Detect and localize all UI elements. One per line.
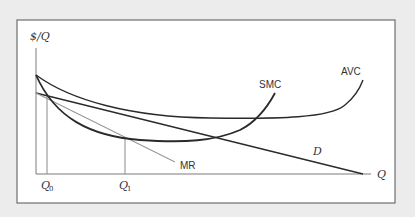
cost-curves-diagram: $/Q Q SMC AVC MR D Q 0 Q 1 (0, 0, 415, 217)
x-axis-label: Q (377, 168, 386, 181)
mr-label: MR (180, 160, 196, 171)
diagram-stage: $/Q Q SMC AVC MR D Q 0 Q 1 (0, 0, 415, 217)
q0-subscript: 0 (49, 185, 53, 193)
q1-subscript: 1 (127, 185, 131, 193)
avc-label: AVC (341, 66, 361, 77)
y-axis-label: $/Q (30, 30, 50, 43)
demand-label: D (312, 145, 322, 158)
smc-label: SMC (259, 79, 281, 90)
